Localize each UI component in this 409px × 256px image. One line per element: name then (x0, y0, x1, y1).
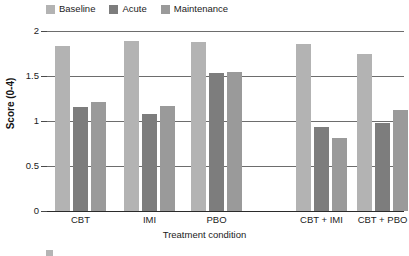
y-axis-tick-mark (41, 166, 47, 167)
bar-cbt-imi-maintenance (332, 138, 347, 211)
y-axis-tick-label: 1.5 (1, 71, 39, 81)
bar-imi-acute (142, 114, 157, 211)
y-axis-tick-label: 1 (1, 116, 39, 126)
plot-area (47, 31, 404, 211)
y-axis-tick-label: 0.5 (1, 161, 39, 171)
bar-pbo-maintenance (227, 72, 242, 212)
y-axis-tick-labels: 00.511.52 (0, 0, 39, 256)
figure-caption-strip (0, 249, 409, 256)
y-axis-tick-label: 0 (1, 206, 39, 216)
legend-label-maintenance: Maintenance (174, 4, 228, 14)
bar-chart-figure: Baseline Acute Maintenance Score (0-4) 0… (0, 0, 409, 256)
bar-cbt-pbo-maintenance (393, 110, 408, 211)
bar-cbt-pbo-baseline (357, 54, 372, 212)
legend-item-acute: Acute (109, 4, 146, 14)
bar-imi-maintenance (160, 106, 175, 211)
gridline (47, 31, 404, 32)
x-axis-title: Treatment condition (0, 229, 409, 240)
bar-cbt-acute (73, 107, 88, 211)
legend-swatch-acute-icon (109, 5, 118, 14)
x-axis-group-label-cbt: CBT (45, 214, 116, 225)
y-axis-tick-mark (41, 121, 47, 122)
x-axis-group-label-cbt-pbo: CBT + PBO (347, 214, 409, 225)
legend-item-baseline: Baseline (46, 4, 95, 14)
bar-imi-baseline (124, 41, 139, 211)
bar-cbt-imi-acute (314, 127, 329, 211)
y-axis-tick-label: 2 (1, 26, 39, 36)
y-axis-tick-mark (41, 31, 47, 32)
chart-legend: Baseline Acute Maintenance (46, 2, 228, 16)
figure-caption-swatch-icon (46, 250, 53, 256)
bar-pbo-acute (209, 73, 224, 211)
legend-swatch-baseline-icon (46, 5, 55, 14)
x-axis-group-label-pbo: PBO (181, 214, 252, 225)
legend-label-acute: Acute (122, 4, 146, 14)
legend-item-maintenance: Maintenance (161, 4, 228, 14)
bar-cbt-maintenance (91, 102, 106, 211)
gridline (47, 76, 404, 77)
y-axis-tick-mark (41, 211, 47, 212)
legend-swatch-maintenance-icon (161, 5, 170, 14)
bar-cbt-baseline (55, 46, 70, 211)
bar-cbt-pbo-acute (375, 123, 390, 211)
bar-pbo-baseline (191, 42, 206, 211)
y-axis-tick-mark (41, 76, 47, 77)
bar-cbt-imi-baseline (296, 44, 311, 211)
legend-label-baseline: Baseline (59, 4, 95, 14)
x-axis-group-label-imi: IMI (114, 214, 185, 225)
